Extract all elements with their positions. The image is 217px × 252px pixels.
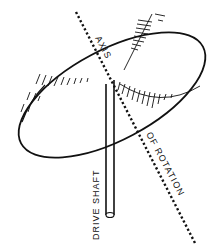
label-of-rotation: OF ROTATION [144,130,186,198]
label-axis: AXIS [93,34,113,60]
diagram-canvas: AXIS OF ROTATION DRIVE SHAFT [0,0,217,252]
disc [0,7,217,183]
disc-axis-diagram: AXIS OF ROTATION DRIVE SHAFT [0,0,217,252]
label-drive-shaft: DRIVE SHAFT [91,169,101,240]
drive-shaft [106,80,114,218]
